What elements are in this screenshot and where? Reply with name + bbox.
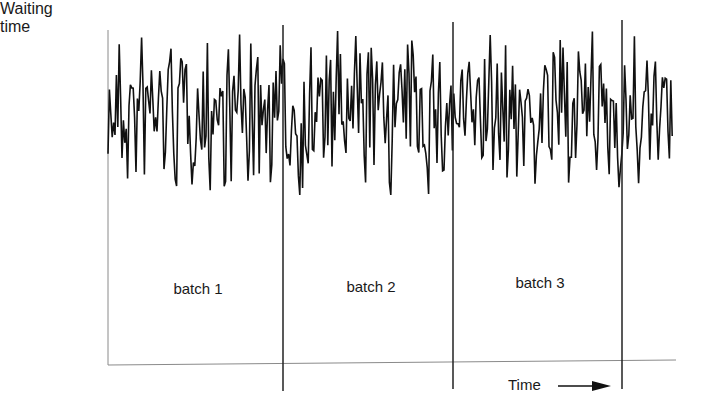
x-axis-label: Time (508, 376, 541, 393)
batch-3-label: batch 3 (515, 274, 564, 291)
x-axis (108, 360, 676, 365)
batch-means-diagram: batch 1 batch 2 batch 3 Time (0, 0, 712, 412)
batch-2-label: batch 2 (346, 278, 395, 295)
batch-1-label: batch 1 (173, 280, 222, 297)
arrow-right-icon (558, 381, 611, 391)
waiting-time-series (108, 31, 672, 195)
